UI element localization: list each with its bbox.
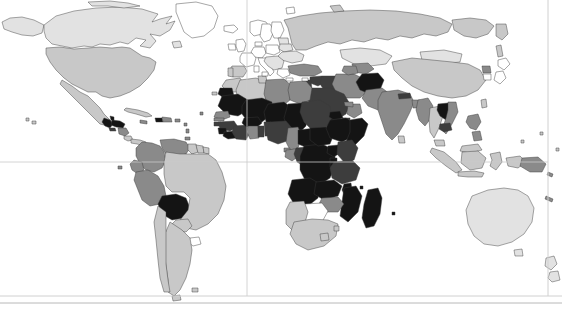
islands-newfoundland xyxy=(172,41,182,48)
islands-mauritius xyxy=(392,212,395,215)
islands-trinidad xyxy=(185,137,190,140)
map-canvas xyxy=(0,0,562,309)
country-dominican-republic xyxy=(162,117,172,122)
country-nepal xyxy=(398,93,411,99)
country-sri-lanka xyxy=(398,136,405,143)
islands-comoros xyxy=(360,186,363,189)
country-puerto-rico xyxy=(175,119,180,122)
country-south-korea xyxy=(483,74,491,80)
country-eswatini xyxy=(334,226,339,231)
world-choropleth-map xyxy=(0,0,562,309)
country-uae xyxy=(344,102,353,107)
country-tasmania xyxy=(514,249,523,256)
islands-taiwan xyxy=(481,99,487,108)
country-ireland xyxy=(228,44,236,50)
islands-galapagos xyxy=(118,166,122,169)
islands-falklands xyxy=(192,288,198,292)
islands-canary xyxy=(212,92,217,95)
country-denmark xyxy=(255,42,262,46)
country-portugal xyxy=(228,68,233,77)
country-lesotho xyxy=(320,233,329,241)
country-egypt xyxy=(288,81,312,104)
country-gambia xyxy=(214,118,224,121)
islands-svalbard xyxy=(286,7,295,14)
country-togo xyxy=(258,126,264,137)
country-french-guiana xyxy=(203,147,209,154)
country-haiti xyxy=(155,118,163,122)
islands-cape-verde xyxy=(200,112,203,115)
country-rwanda xyxy=(330,158,337,162)
country-el-salvador xyxy=(109,128,116,131)
country-north-korea xyxy=(482,66,491,73)
